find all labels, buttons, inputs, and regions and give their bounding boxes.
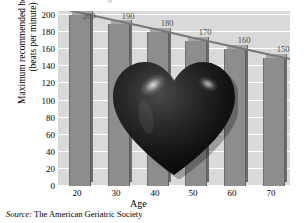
y-tick-label: 120 <box>42 78 56 88</box>
y-tick-label: 0 <box>51 181 56 191</box>
y-axis-tick-labels: 020406080100120140160180200 <box>22 12 55 192</box>
x-tick-label: 30 <box>112 188 121 198</box>
x-tick-label: 40 <box>151 188 160 198</box>
y-tick-label: 20 <box>46 164 55 174</box>
x-axis-tick-labels: 203040506070 <box>58 188 290 202</box>
clipped-top-label: 0 <box>108 0 112 5</box>
data-label: 170 <box>199 27 212 37</box>
x-tick-label: 50 <box>189 188 198 198</box>
y-tick-label: 200 <box>42 10 56 20</box>
source-note: Source: The American Geriatric Society <box>6 209 142 219</box>
y-tick-label: 140 <box>42 61 56 71</box>
y-tick-label: 40 <box>46 147 55 157</box>
heart-rate-bar-chart: Maximum recommended heart rate (beats pe… <box>0 0 304 223</box>
x-tick-label: 20 <box>73 188 82 198</box>
data-label: 190 <box>122 11 135 21</box>
x-tick-label: 70 <box>267 188 276 198</box>
plot-area: 200190180170160150 <box>58 11 290 186</box>
y-tick-label: 80 <box>46 113 55 123</box>
data-label: 160 <box>238 35 251 45</box>
data-label: 200 <box>83 11 96 21</box>
data-label: 150 <box>277 44 290 54</box>
heart-icon <box>110 57 238 179</box>
x-axis-title: Age <box>130 198 147 209</box>
y-tick-label: 160 <box>42 44 56 54</box>
data-label: 180 <box>161 18 174 28</box>
y-tick-label: 100 <box>42 96 56 106</box>
x-tick-label: 60 <box>228 188 237 198</box>
source-label: Source: <box>6 209 32 219</box>
y-tick-label: 60 <box>46 130 55 140</box>
y-tick-label: 180 <box>42 27 56 37</box>
source-text: The American Geriatric Society <box>34 209 142 219</box>
